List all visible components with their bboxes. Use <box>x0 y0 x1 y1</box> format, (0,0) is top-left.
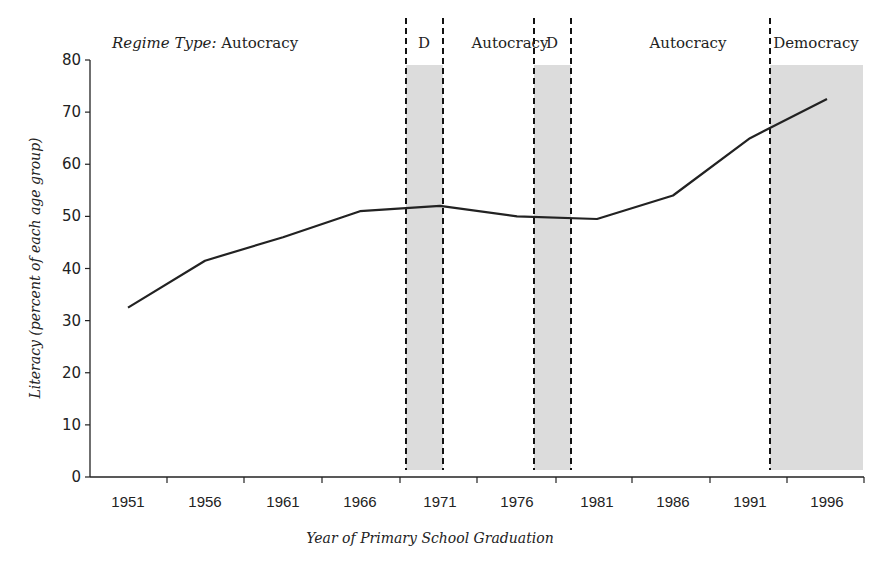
x-tick-label: 1981 <box>580 493 613 510</box>
regime-label-4: Autocracy <box>649 34 727 52</box>
literacy-line <box>128 99 827 308</box>
x-tick-label: 1956 <box>188 493 221 510</box>
y-tick-label: 70 <box>62 103 81 121</box>
x-tick-label: 1966 <box>343 493 376 510</box>
y-tick-label: 30 <box>62 312 81 330</box>
x-tick-label: 1961 <box>266 493 299 510</box>
regime-label-3: D <box>546 34 558 52</box>
x-tick-label: 1971 <box>423 493 456 510</box>
y-tick-label: 80 <box>62 51 81 69</box>
y-tick-label: 40 <box>62 260 81 278</box>
regime-label-1: D <box>418 34 430 52</box>
x-axis-title: Year of Primary School Graduation <box>306 530 553 546</box>
regime-shade-1 <box>534 65 571 470</box>
y-tick-label: 10 <box>62 416 81 434</box>
x-tick-label: 1951 <box>111 493 144 510</box>
y-tick-label: 50 <box>62 207 81 225</box>
regime-label-0: Regime Type: Autocracy <box>111 34 299 52</box>
regime-shade-2 <box>770 65 863 470</box>
regime-label-2: Autocracy <box>471 34 549 52</box>
x-tick-label: 1976 <box>500 493 533 510</box>
x-tick-label: 1996 <box>810 493 843 510</box>
y-tick-label: 20 <box>62 364 81 382</box>
y-tick-label: 60 <box>62 155 81 173</box>
regime-shade-0 <box>406 65 443 470</box>
literacy-chart: Regime Type: AutocracyDAutocracyDAutocra… <box>0 0 890 577</box>
x-tick-label: 1986 <box>656 493 689 510</box>
x-tick-label: 1991 <box>733 493 766 510</box>
regime-label-5: Democracy <box>773 34 859 52</box>
y-axis-title: Literacy (percent of each age group) <box>27 137 43 399</box>
y-tick-label: 0 <box>71 468 81 486</box>
